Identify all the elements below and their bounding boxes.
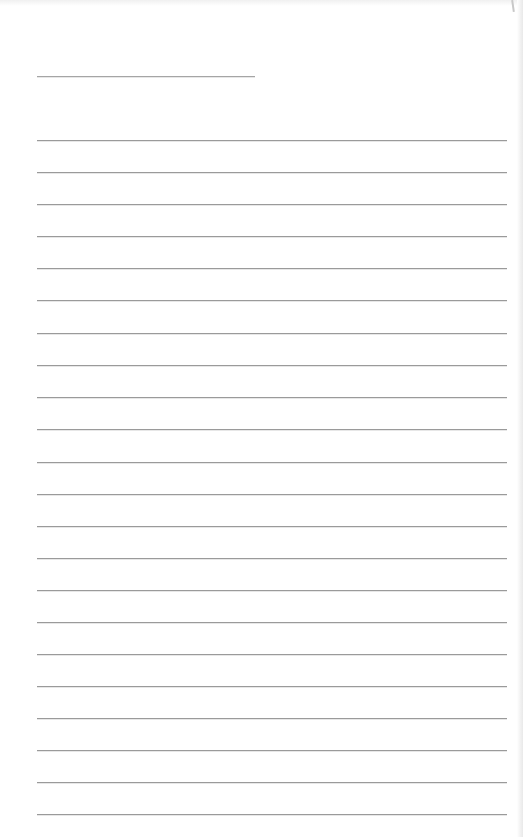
ruled-line <box>37 462 507 463</box>
ruled-lines-area <box>0 0 523 837</box>
ruled-line <box>37 268 507 269</box>
ruled-line <box>37 204 507 205</box>
ruled-line <box>37 718 507 719</box>
ruled-line <box>37 654 507 655</box>
ruled-line <box>37 814 507 815</box>
ruled-line <box>37 172 507 173</box>
ruled-line <box>37 590 507 591</box>
ruled-line <box>37 397 507 398</box>
ruled-line <box>37 236 507 237</box>
ruled-line <box>37 140 507 141</box>
ruled-line <box>37 558 507 559</box>
ruled-line <box>37 782 507 783</box>
ruled-line <box>37 333 507 334</box>
ruled-line <box>37 494 507 495</box>
ruled-line <box>37 300 507 301</box>
lined-paper-page <box>0 0 523 837</box>
ruled-line <box>37 365 507 366</box>
ruled-line <box>37 526 507 527</box>
ruled-line <box>37 622 507 623</box>
ruled-line <box>37 686 507 687</box>
ruled-line <box>37 429 507 430</box>
ruled-line <box>37 750 507 751</box>
